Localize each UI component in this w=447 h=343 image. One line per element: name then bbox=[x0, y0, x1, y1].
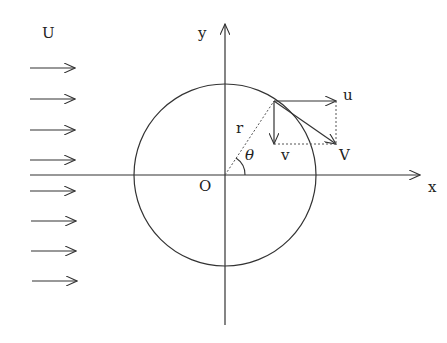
label-radius: r bbox=[236, 119, 244, 137]
theta-arc bbox=[236, 158, 245, 175]
label-x-axis: x bbox=[428, 178, 437, 196]
label-origin: O bbox=[199, 177, 211, 195]
label-u: u bbox=[343, 86, 353, 104]
flow-diagram: U y x O r θ u v V bbox=[0, 0, 447, 343]
label-freestream: U bbox=[42, 24, 55, 42]
label-y-axis: y bbox=[197, 24, 207, 42]
label-v: v bbox=[280, 146, 290, 164]
label-angle: θ bbox=[245, 146, 254, 164]
label-velocity: V bbox=[338, 146, 351, 164]
V-vector bbox=[274, 101, 336, 144]
